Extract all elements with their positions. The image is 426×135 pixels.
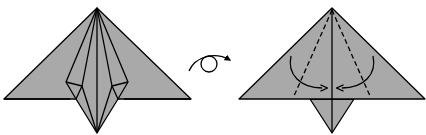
- step-b-figure: [239, 8, 425, 133]
- origami-diagram: Folded model with inner flaps Turn over …: [0, 0, 426, 135]
- flip-over-icon: [189, 56, 230, 72]
- step-a-figure: [4, 8, 191, 133]
